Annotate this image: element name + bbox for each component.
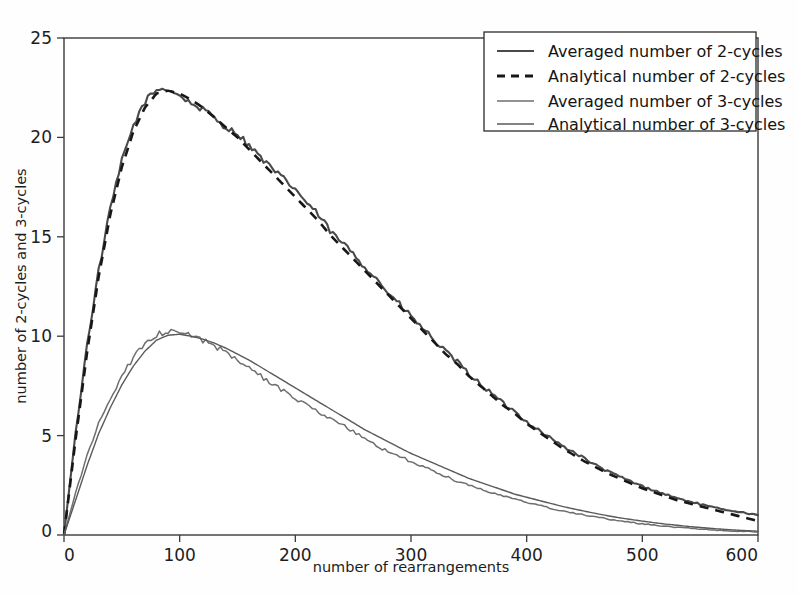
y-tick-label: 0 [41, 521, 52, 541]
y-tick-label: 5 [41, 426, 52, 446]
legend-label-analytical-2-cycles: Analytical number of 2-cycles [548, 67, 785, 86]
x-tick-label: 400 [510, 545, 542, 565]
x-tick-label: 200 [279, 545, 311, 565]
x-tick-label: 100 [163, 545, 195, 565]
y-axis-label: number of 2-cycles and 3-cycles [13, 168, 29, 403]
x-axis-label: number of rearrangements [313, 559, 510, 575]
y-tick-label: 20 [30, 127, 52, 147]
x-tick-label: 0 [64, 545, 75, 565]
x-tick-label: 500 [626, 545, 658, 565]
legend-label-averaged-3-cycles: Averaged number of 3-cycles [548, 92, 783, 111]
y-tick-label: 10 [30, 326, 52, 346]
y-tick-label: 15 [30, 227, 52, 247]
chart-figure: 0100200300400500600 0510152025 number of… [0, 0, 798, 597]
legend-label-averaged-2-cycles: Averaged number of 2-cycles [548, 42, 783, 61]
y-tick-label: 25 [30, 28, 52, 48]
legend-label-analytical-3-cycles: Analytical number of 3-cycles [548, 115, 785, 134]
y-axis-ticks: 0510152025 [30, 28, 64, 541]
chart-svg: 0100200300400500600 0510152025 number of… [0, 0, 798, 597]
chart-legend: Averaged number of 2-cycles Analytical n… [484, 32, 785, 134]
x-tick-label: 600 [726, 545, 758, 565]
